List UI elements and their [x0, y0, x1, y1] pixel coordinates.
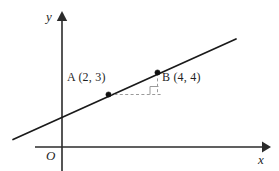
origin-label: O: [46, 149, 55, 162]
graph-line-ab: [13, 39, 236, 140]
point-a-dot: [106, 92, 111, 97]
figure-canvas: [0, 0, 279, 171]
coordinate-figure: y x O A (2, 3) B (4, 4): [0, 0, 279, 171]
point-b-dot: [155, 70, 160, 75]
point-b-label: B (4, 4): [162, 71, 201, 83]
x-axis-arrowhead: [262, 142, 271, 153]
x-axis-label: x: [258, 153, 264, 166]
y-axis-label: y: [46, 10, 52, 23]
point-a-label: A (2, 3): [67, 71, 106, 83]
y-axis-arrowhead: [57, 11, 67, 21]
